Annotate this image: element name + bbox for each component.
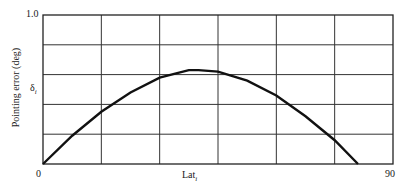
- y-axis-label: Pointing error (deg): [10, 43, 21, 133]
- chart-plot: [0, 0, 405, 185]
- x-axis-label: Lati: [182, 169, 197, 183]
- x-tick-origin: 0: [36, 168, 41, 179]
- y-tick-top: 1.0: [26, 8, 39, 19]
- x-tick-end: 90: [385, 168, 395, 179]
- data-curve: [43, 70, 358, 164]
- delta-annotation: δi: [30, 82, 37, 96]
- grid-lines: [43, 15, 393, 164]
